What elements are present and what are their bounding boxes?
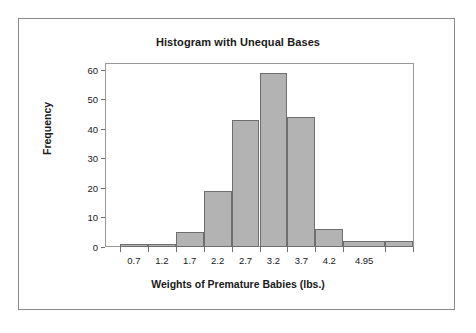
x-tick-mark <box>343 247 344 252</box>
x-tick-mark <box>232 247 233 252</box>
x-axis-title: Weights of Premature Babies (lbs.) <box>0 278 476 290</box>
histogram-bar <box>120 244 148 247</box>
histogram-bar <box>148 244 176 247</box>
x-tick-mark <box>260 247 261 252</box>
histogram-bar <box>385 241 413 247</box>
histogram-bar <box>176 232 204 247</box>
x-tick-label: 4.2 <box>323 255 336 266</box>
histogram-bar <box>315 229 343 247</box>
x-tick-mark <box>413 247 414 252</box>
x-tick-label: 1.7 <box>183 255 196 266</box>
x-tick-mark <box>120 247 121 252</box>
x-tick-label: 0.7 <box>127 255 140 266</box>
histogram-bar <box>204 191 232 247</box>
histogram-bar <box>287 117 315 247</box>
x-tick-label: 1.2 <box>155 255 168 266</box>
histogram-bar <box>260 73 288 247</box>
x-tick-label: 2.2 <box>211 255 224 266</box>
x-tick-mark <box>287 247 288 252</box>
x-tick-mark <box>204 247 205 252</box>
x-tick-label: 3.2 <box>267 255 280 266</box>
x-tick-mark <box>315 247 316 252</box>
y-axis-title: Frequency <box>41 102 53 155</box>
plot-area <box>106 64 413 247</box>
histogram-bar <box>343 241 385 247</box>
x-tick-mark <box>176 247 177 252</box>
histogram-figure: Histogram with Unequal Bases 01020304050… <box>0 0 476 333</box>
chart-title: Histogram with Unequal Bases <box>0 36 476 48</box>
x-tick-label: 2.7 <box>239 255 252 266</box>
histogram-bar <box>232 120 260 247</box>
x-tick-mark <box>148 247 149 252</box>
x-tick-label: 4.95 <box>355 255 374 266</box>
x-tick-label: 3.7 <box>295 255 308 266</box>
x-tick-mark <box>385 247 386 252</box>
